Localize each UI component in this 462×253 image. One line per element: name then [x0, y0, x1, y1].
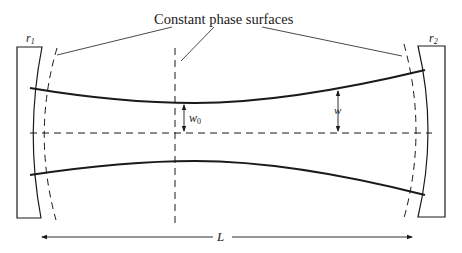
mirror-right-radius-label: r2: [429, 31, 438, 46]
leader-line-left: [57, 27, 172, 55]
left-phase-surface: [44, 48, 57, 220]
beam-radius-label: w: [334, 104, 342, 116]
left-mirror: [17, 47, 42, 218]
phase-surfaces-label: Constant phase surfaces: [154, 11, 294, 27]
beam-envelope-upper: [30, 70, 425, 103]
length-label: L: [216, 229, 224, 244]
w0-main: w: [189, 111, 197, 125]
mirror-left-radius-label: r1: [26, 31, 35, 46]
w0-sub: 0: [197, 117, 201, 126]
waist-radius-label: w0: [189, 111, 201, 126]
beam-envelope-lower: [30, 161, 425, 195]
r2-sub: 2: [434, 37, 438, 46]
leader-line-center: [181, 27, 214, 61]
r1-sub: 1: [31, 37, 35, 46]
resonator-diagram: Constant phase surfaces r1 r2 w0 w L: [0, 0, 462, 253]
leader-line-right: [262, 27, 402, 56]
